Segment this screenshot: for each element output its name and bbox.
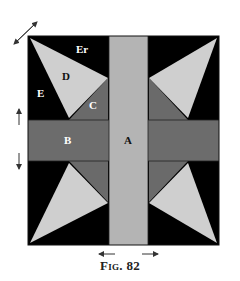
label-d: D: [62, 70, 70, 82]
figure-caption: Fig. 82: [0, 258, 240, 274]
label-c: C: [89, 99, 97, 111]
quilt-block-diagram: Er D E C B A: [0, 0, 240, 281]
label-b: B: [64, 134, 72, 146]
label-a: A: [124, 134, 132, 146]
label-e: E: [37, 87, 44, 99]
label-er: Er: [76, 43, 88, 55]
